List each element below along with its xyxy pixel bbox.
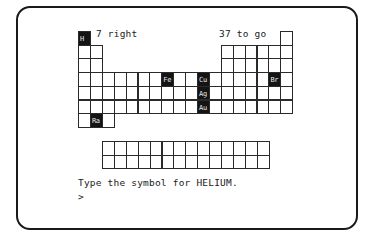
question-prompt: Type the symbol for HELIUM. <box>78 178 238 188</box>
element-symbol: H <box>80 35 84 43</box>
element-cell-answered: H <box>78 31 91 46</box>
screen-frame <box>16 6 358 230</box>
right-count-label: 7 right <box>96 29 137 39</box>
element-cell <box>280 45 293 60</box>
element-symbol: Fe <box>163 76 171 84</box>
element-cell <box>257 155 270 170</box>
element-cell <box>280 58 293 73</box>
element-cell <box>280 100 293 115</box>
element-symbol: Ag <box>199 90 207 98</box>
element-symbol: Br <box>270 76 278 84</box>
element-cell <box>280 86 293 101</box>
element-cell <box>280 72 293 87</box>
element-cell <box>90 58 103 73</box>
remaining-count-label: 37 to go <box>219 29 266 39</box>
element-cell <box>102 113 115 128</box>
element-cell <box>90 45 103 60</box>
element-cell <box>280 31 293 46</box>
answer-input[interactable]: > <box>78 192 84 202</box>
element-symbol: Cu <box>199 76 207 84</box>
element-symbol: Au <box>199 104 207 112</box>
element-cell <box>257 141 270 156</box>
element-symbol: Ra <box>92 117 100 125</box>
